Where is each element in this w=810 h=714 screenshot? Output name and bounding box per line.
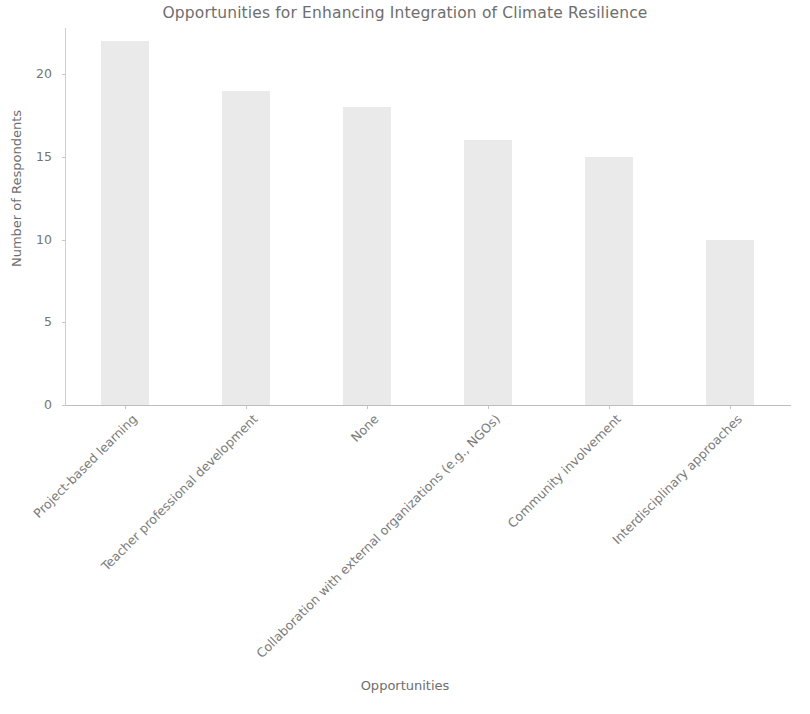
x-axis-tick-mark [488,405,489,409]
y-axis-tick-label: 10 [36,232,52,248]
x-axis-tick-mark [730,405,731,409]
y-axis-tick: 5 [0,322,65,323]
x-axis-tick-mark [246,405,247,409]
x-axis-tick-label: Community involvement [505,412,624,531]
y-axis-tick: 0 [0,405,65,406]
plot-area [65,28,790,405]
x-axis-tick-label: Interdisciplinary approaches [609,412,744,547]
bar [464,140,512,405]
x-axis-tick-mark [125,405,126,409]
y-axis-tick-label: 5 [44,314,52,330]
bar [706,240,754,405]
y-axis-tick-mark [62,405,66,406]
bar [222,91,270,405]
y-axis-tick: 20 [0,74,65,75]
y-axis-tick-label: 15 [36,149,52,165]
bar [343,107,391,405]
y-axis-title: Number of Respondents [9,89,24,289]
chart-title: Opportunities for Enhancing Integration … [0,4,810,22]
x-axis-tick-mark [609,405,610,409]
x-axis-tick-label: None [349,412,382,445]
y-axis-tick-label: 20 [36,66,52,82]
bar-chart-figure: Opportunities for Enhancing Integration … [0,0,810,714]
x-axis-tick-mark [367,405,368,409]
bar [585,157,633,405]
x-axis-tick-label: Collaboration with external organization… [254,412,503,661]
bar [101,41,149,405]
x-axis-tick-label: Project-based learning [31,412,140,521]
clipped-text-artifact [0,708,430,714]
y-axis-tick-label: 0 [44,397,52,413]
x-axis-spine [65,405,791,406]
x-axis-title: Opportunities [0,678,810,693]
